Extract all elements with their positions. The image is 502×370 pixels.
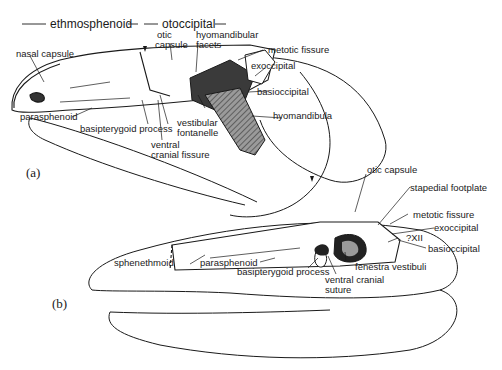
label-hyomandibular-facets-2: facets	[196, 40, 221, 50]
label-exoccipital-a: exoccipital	[251, 61, 295, 71]
label-basipterygoid-process-a: basipterygoid process	[80, 124, 172, 134]
panel-label-b: (b)	[52, 296, 67, 312]
label-fenestra-vestibuli: fenestra vestibuli	[355, 262, 426, 272]
label-basioccipital-a: basioccipital	[257, 87, 309, 97]
label-metotic-fissure-b: metotic fissure	[413, 210, 474, 220]
tick-marker-b	[310, 176, 314, 182]
label-basioccipital-b: basioccipital	[428, 244, 480, 254]
region-label-ethmosphenoid: ethmosphenoid	[50, 17, 132, 31]
label-metotic-fissure-a: metotic fissure	[268, 45, 329, 55]
label-sphenethmoid: sphenethmoid	[114, 258, 174, 268]
label-stapedial-footplate: stapedial footplate	[410, 183, 487, 193]
label-basipterygoid-process-b: basipterygoid process	[237, 267, 329, 277]
panel-label-a: (a)	[26, 165, 40, 181]
label-vestibular-fontanelle-2: fontanelle	[177, 128, 218, 138]
label-otic-capsule-a-2: capsule	[155, 40, 188, 50]
label-parasphenoid-a: parasphenoid	[20, 112, 78, 122]
label-xii: ?XII	[406, 233, 423, 243]
label-ventral-cranial-fissure-2: cranial fissure	[151, 150, 210, 160]
label-nasal-capsule: nasal capsule	[16, 49, 74, 59]
label-ventral-cranial-suture-2: suture	[325, 285, 351, 295]
label-exoccipital-b: exoccipital	[434, 223, 478, 233]
label-hyomandibula-a: hyomandibula	[273, 111, 332, 121]
label-otic-capsule-b: otic capsule	[367, 165, 417, 175]
